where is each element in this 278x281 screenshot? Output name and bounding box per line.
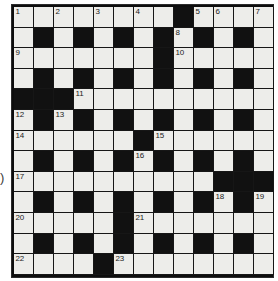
grid-cell[interactable] [34, 254, 54, 275]
grid-cell[interactable] [154, 172, 174, 193]
grid-cell[interactable] [94, 131, 114, 152]
grid-cell[interactable] [134, 69, 154, 90]
grid-cell[interactable] [194, 89, 214, 110]
grid-cell[interactable]: 15 [154, 131, 174, 152]
grid-cell[interactable] [94, 192, 114, 213]
grid-cell[interactable]: 2 [54, 7, 74, 28]
grid-cell[interactable] [94, 48, 114, 69]
grid-cell[interactable] [154, 89, 174, 110]
grid-cell[interactable] [194, 213, 214, 234]
grid-cell[interactable] [14, 192, 34, 213]
grid-cell[interactable] [94, 69, 114, 90]
grid-cell[interactable] [54, 48, 74, 69]
grid-cell[interactable] [94, 234, 114, 255]
grid-cell[interactable] [34, 131, 54, 152]
grid-cell[interactable] [174, 131, 194, 152]
grid-cell[interactable]: 13 [54, 110, 74, 131]
grid-cell[interactable] [174, 254, 194, 275]
grid-cell[interactable]: 21 [134, 213, 154, 234]
grid-cell[interactable] [34, 213, 54, 234]
grid-cell[interactable] [94, 172, 114, 193]
grid-cell[interactable] [254, 234, 274, 255]
grid-cell[interactable] [174, 151, 194, 172]
grid-cell[interactable] [134, 89, 154, 110]
grid-cell[interactable]: 1 [14, 7, 34, 28]
grid-cell[interactable]: 6 [214, 7, 234, 28]
grid-cell[interactable] [194, 254, 214, 275]
grid-cell[interactable] [114, 48, 134, 69]
grid-cell[interactable] [174, 172, 194, 193]
grid-cell[interactable] [214, 110, 234, 131]
grid-cell[interactable] [54, 234, 74, 255]
grid-cell[interactable] [54, 213, 74, 234]
grid-cell[interactable] [34, 172, 54, 193]
grid-cell[interactable]: 9 [14, 48, 34, 69]
grid-cell[interactable] [254, 131, 274, 152]
grid-cell[interactable] [134, 48, 154, 69]
grid-cell[interactable] [74, 172, 94, 193]
grid-cell[interactable] [114, 7, 134, 28]
grid-cell[interactable] [214, 28, 234, 49]
grid-cell[interactable] [14, 151, 34, 172]
grid-cell[interactable] [214, 213, 234, 234]
grid-cell[interactable] [34, 48, 54, 69]
grid-cell[interactable] [194, 131, 214, 152]
grid-cell[interactable] [254, 89, 274, 110]
grid-cell[interactable]: 4 [134, 7, 154, 28]
grid-cell[interactable] [254, 28, 274, 49]
grid-cell[interactable] [74, 254, 94, 275]
grid-cell[interactable] [14, 28, 34, 49]
grid-cell[interactable] [94, 151, 114, 172]
grid-cell[interactable] [54, 28, 74, 49]
grid-cell[interactable] [134, 254, 154, 275]
grid-cell[interactable] [174, 110, 194, 131]
grid-cell[interactable] [174, 89, 194, 110]
grid-cell[interactable]: 22 [14, 254, 34, 275]
grid-cell[interactable] [154, 254, 174, 275]
grid-cell[interactable] [214, 234, 234, 255]
grid-cell[interactable] [214, 151, 234, 172]
grid-cell[interactable] [254, 48, 274, 69]
grid-cell[interactable] [174, 69, 194, 90]
grid-cell[interactable] [234, 48, 254, 69]
grid-cell[interactable] [154, 213, 174, 234]
grid-cell[interactable] [214, 131, 234, 152]
grid-cell[interactable] [254, 254, 274, 275]
grid-cell[interactable] [54, 254, 74, 275]
grid-cell[interactable]: 7 [254, 7, 274, 28]
grid-cell[interactable] [194, 48, 214, 69]
grid-cell[interactable] [234, 213, 254, 234]
grid-cell[interactable] [54, 131, 74, 152]
grid-cell[interactable] [174, 192, 194, 213]
grid-cell[interactable] [74, 213, 94, 234]
grid-cell[interactable] [94, 89, 114, 110]
grid-cell[interactable]: 14 [14, 131, 34, 152]
grid-cell[interactable]: 8 [174, 28, 194, 49]
grid-cell[interactable] [154, 7, 174, 28]
grid-cell[interactable] [74, 7, 94, 28]
grid-cell[interactable]: 18 [214, 192, 234, 213]
grid-cell[interactable] [214, 254, 234, 275]
grid-cell[interactable] [94, 28, 114, 49]
grid-cell[interactable] [134, 110, 154, 131]
grid-cell[interactable] [54, 151, 74, 172]
grid-cell[interactable] [234, 254, 254, 275]
grid-cell[interactable] [134, 192, 154, 213]
grid-cell[interactable] [34, 7, 54, 28]
grid-cell[interactable]: 19 [254, 192, 274, 213]
grid-cell[interactable]: 17 [14, 172, 34, 193]
grid-cell[interactable] [254, 110, 274, 131]
grid-cell[interactable] [234, 89, 254, 110]
grid-cell[interactable] [214, 89, 234, 110]
grid-cell[interactable] [14, 234, 34, 255]
grid-cell[interactable]: 5 [194, 7, 214, 28]
grid-cell[interactable] [94, 213, 114, 234]
grid-cell[interactable] [234, 7, 254, 28]
grid-cell[interactable] [114, 172, 134, 193]
grid-cell[interactable] [54, 172, 74, 193]
grid-cell[interactable] [114, 89, 134, 110]
grid-cell[interactable] [74, 131, 94, 152]
grid-cell[interactable] [54, 192, 74, 213]
grid-cell[interactable] [134, 172, 154, 193]
grid-cell[interactable]: 23 [114, 254, 134, 275]
